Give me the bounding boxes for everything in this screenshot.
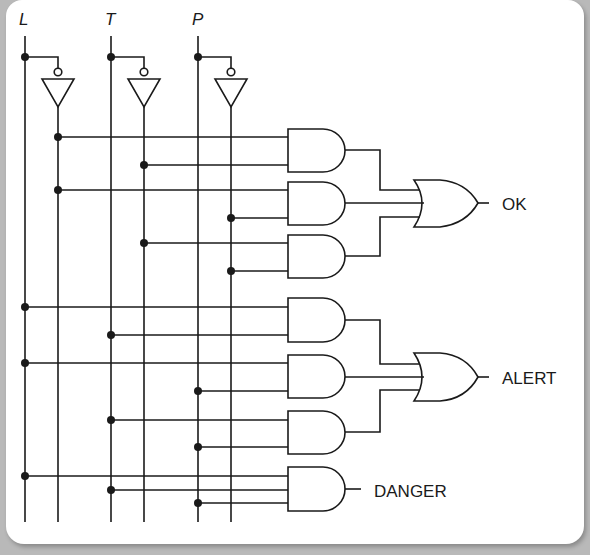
and-gate-3 <box>288 235 345 278</box>
output-label-danger: DANGER <box>374 482 447 501</box>
inverter-T <box>111 57 160 107</box>
input-label-T: T <box>105 10 117 29</box>
and-gate-5 <box>288 355 345 398</box>
input-label-L: L <box>19 10 28 29</box>
logic-circuit-diagram: L T P OK ALERT DANGER <box>0 0 590 555</box>
and-gate-danger <box>288 467 345 511</box>
and-gate-6 <box>288 411 345 454</box>
and-gate-2 <box>288 182 345 225</box>
inverter-L <box>25 57 74 107</box>
inverter-P <box>198 57 247 107</box>
output-label-alert: ALERT <box>502 369 557 388</box>
danger-input-wires <box>25 476 288 503</box>
and-gate-4 <box>288 298 345 342</box>
junction-dots <box>21 53 235 507</box>
and-gate-1 <box>288 129 345 172</box>
alert-or-wiring <box>345 320 424 432</box>
ok-or-wiring <box>345 150 424 256</box>
ok-input-wires <box>58 137 288 271</box>
output-label-ok: OK <box>502 195 527 214</box>
input-label-P: P <box>192 10 204 29</box>
alert-input-wires <box>25 307 288 447</box>
